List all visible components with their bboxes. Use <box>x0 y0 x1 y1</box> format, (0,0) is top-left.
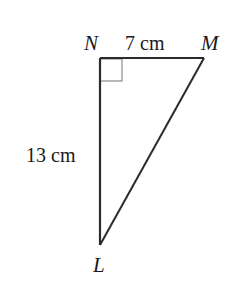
triangle-diagram: N M L 7 cm 13 cm <box>0 0 242 300</box>
right-angle-marker <box>100 59 122 81</box>
side-ML <box>100 58 204 245</box>
vertex-label-L: L <box>92 253 105 277</box>
vertex-label-M: M <box>200 31 220 55</box>
vertex-label-N: N <box>83 31 99 55</box>
side-label-NM: 7 cm <box>125 32 165 54</box>
side-label-NL: 13 cm <box>26 144 76 166</box>
